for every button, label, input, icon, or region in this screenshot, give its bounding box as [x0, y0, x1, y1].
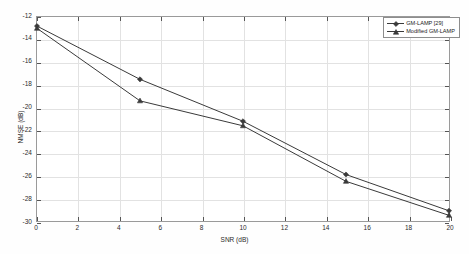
- series-layer: [37, 17, 449, 221]
- x-tick-label: 8: [192, 225, 212, 232]
- data-point-marker: [137, 77, 142, 82]
- data-point-marker: [343, 172, 348, 177]
- legend-item[interactable]: Modified GM-LAMP: [387, 28, 455, 36]
- x-tick-label: 4: [109, 225, 129, 232]
- figure-canvas: -12-14-16-18-20-22-24-26-28-30 024681012…: [0, 0, 469, 254]
- y-tick-label: -24: [12, 150, 32, 157]
- y-axis-label: NMSE (dB): [17, 111, 24, 144]
- x-tick-label: 16: [357, 225, 377, 232]
- legend-swatch-diamond-icon: [387, 20, 404, 28]
- x-tick-label: 10: [233, 225, 253, 232]
- y-tick-label: -28: [12, 196, 32, 203]
- y-tick-label: -26: [12, 173, 32, 180]
- y-tick-label: -14: [12, 35, 32, 42]
- x-tick-label: 20: [440, 225, 460, 232]
- x-tick-label: 2: [67, 225, 87, 232]
- x-axis-label: SNR (dB): [0, 236, 469, 243]
- legend[interactable]: GM-LAMP [29] Modified GM-LAMP: [383, 17, 460, 38]
- data-point-marker: [343, 179, 348, 184]
- y-tick-label: -18: [12, 81, 32, 88]
- x-tick-label: 12: [274, 225, 294, 232]
- y-tick-label: -12: [12, 13, 32, 20]
- legend-label: GM-LAMP [29]: [406, 20, 443, 28]
- legend-swatch-triangle-icon: [387, 28, 404, 36]
- plot-area: [36, 16, 450, 222]
- x-tick-label: 18: [399, 225, 419, 232]
- data-point-marker: [137, 98, 142, 103]
- x-tick-label: 6: [150, 225, 170, 232]
- legend-label: Modified GM-LAMP: [406, 28, 455, 36]
- legend-item[interactable]: GM-LAMP [29]: [387, 20, 455, 28]
- y-tick-label: -16: [12, 58, 32, 65]
- x-tick-label: 0: [26, 225, 46, 232]
- x-tick-label: 14: [316, 225, 336, 232]
